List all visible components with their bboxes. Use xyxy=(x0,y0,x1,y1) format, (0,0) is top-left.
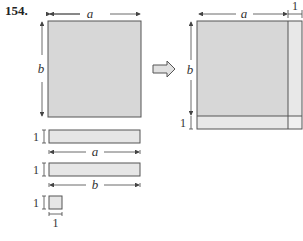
label-a-strip: a xyxy=(92,144,99,159)
label-a-right: a xyxy=(241,6,248,21)
implies-arrow-icon xyxy=(153,61,175,77)
label-one: 1 xyxy=(33,130,39,144)
label-a-top: a xyxy=(87,6,94,21)
square-1-by-1: 1 1 xyxy=(33,196,62,230)
strip-1-by-a: 1 a xyxy=(33,130,140,159)
label-one-top-right: 1 xyxy=(292,0,298,13)
diagram-canvas: a b 1 a 1 b 1 xyxy=(0,0,303,241)
label-b-left: b xyxy=(38,61,45,76)
label-one: 1 xyxy=(53,216,59,230)
composite-rectangle: a 1 b 1 xyxy=(180,0,302,130)
label-one: 1 xyxy=(33,196,39,210)
square-a-by-b: a b xyxy=(38,6,141,117)
label-one-bottom-left: 1 xyxy=(180,116,186,130)
label-b-strip: b xyxy=(92,177,99,192)
label-b-right: b xyxy=(187,62,194,77)
strip-1-by-b: 1 b xyxy=(33,163,140,192)
label-one: 1 xyxy=(33,163,39,177)
